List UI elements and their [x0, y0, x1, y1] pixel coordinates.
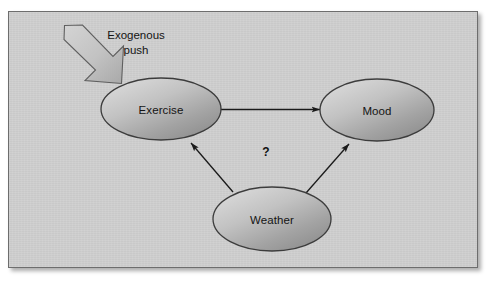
exogenous-push-line-1: Exogenous — [107, 28, 165, 43]
diagram-frame: Exercise Mood Weather Exogenous push ? — [8, 11, 478, 268]
node-mood — [320, 79, 434, 141]
node-exercise — [101, 78, 221, 140]
edge-weather-to-exercise — [191, 143, 233, 192]
question-mark-label: ? — [262, 146, 269, 158]
exogenous-push-annotation: Exogenous push — [107, 28, 165, 57]
exogenous-push-line-2: push — [107, 43, 165, 58]
figure-canvas: Exercise Mood Weather Exogenous push ? — [0, 0, 502, 284]
edge-weather-to-mood — [306, 144, 349, 193]
diagram-vector-layer — [9, 12, 478, 268]
node-weather — [213, 187, 331, 251]
